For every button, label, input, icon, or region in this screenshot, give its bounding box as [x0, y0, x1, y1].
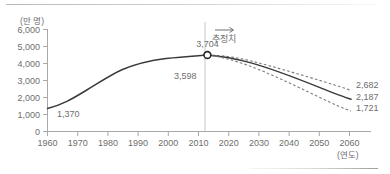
- x-tick-label: 2060: [339, 138, 359, 148]
- series-historical-line: [48, 55, 208, 108]
- x-tick-label: 2020: [219, 138, 239, 148]
- x-tick-label: 2000: [158, 138, 178, 148]
- series-medium-projection-line: [207, 55, 351, 99]
- y-tick-label: 4,000: [17, 59, 40, 69]
- y-tick-label: 2,000: [17, 93, 40, 103]
- high-end-label: 2,682: [356, 80, 379, 90]
- x-tick-label: 1990: [128, 138, 148, 148]
- x-tick-label: 2010: [188, 138, 208, 148]
- x-axis-unit-label: (연도): [337, 150, 359, 160]
- x-tick-label: 2050: [309, 138, 329, 148]
- mid-value-label: 3,598: [174, 71, 197, 81]
- x-tick-label: 1960: [37, 138, 57, 148]
- population-projection-figure: (만 명) 6,000 5,000 4,000 3,000 2,000 1,00…: [0, 0, 390, 174]
- x-tick-label: 2040: [279, 138, 299, 148]
- y-tick-label: 3,000: [17, 76, 40, 86]
- y-tick-label: 6,000: [17, 25, 40, 35]
- y-tick-label: 5,000: [17, 42, 40, 52]
- medium-end-label: 2,187: [356, 92, 379, 102]
- peak-marker-point: [204, 52, 211, 59]
- line-chart: (만 명) 6,000 5,000 4,000 3,000 2,000 1,00…: [0, 0, 390, 174]
- x-tick-label: 1970: [68, 138, 88, 148]
- low-end-label: 1,721: [356, 103, 379, 113]
- x-tick-label: 2030: [249, 138, 269, 148]
- x-tick-label: 1980: [98, 138, 118, 148]
- x-axis-ticks: [48, 132, 350, 137]
- y-tick-label: 1,000: [17, 110, 40, 120]
- y-tick-label: 0: [35, 127, 40, 137]
- y-axis-ticks: [43, 30, 48, 132]
- projection-arrow-icon: [215, 27, 234, 32]
- peak-value-label: 3,704: [196, 39, 219, 49]
- start-value-label: 1,370: [57, 109, 80, 119]
